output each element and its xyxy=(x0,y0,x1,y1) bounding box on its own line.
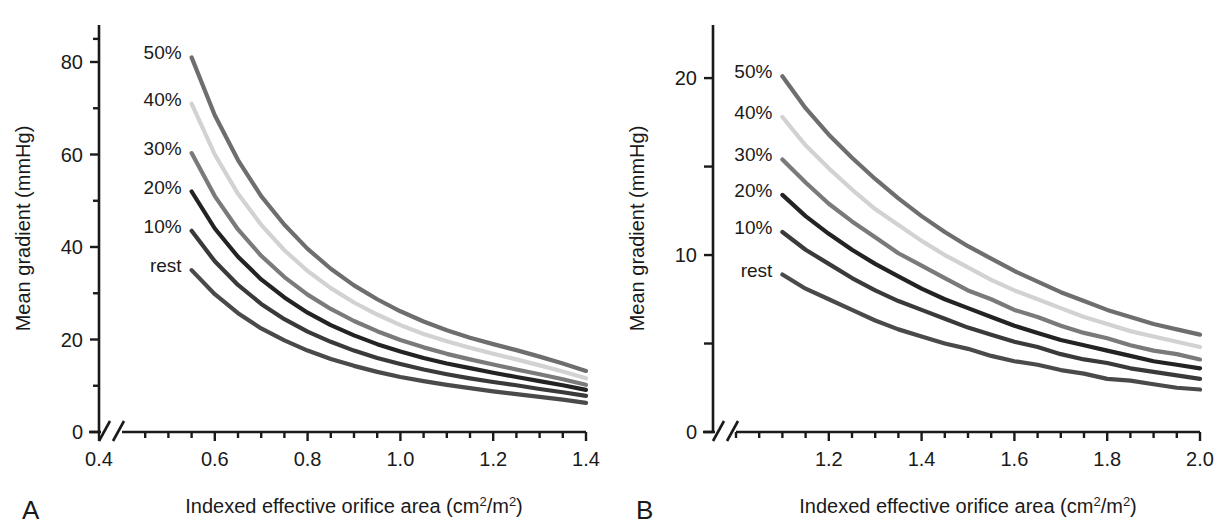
x-axis-tick-label: 1.4 xyxy=(908,448,936,470)
series-label-50pct: 50% xyxy=(734,61,772,82)
x-axis-title-mid: /m xyxy=(1101,495,1123,517)
panel-b: 010201.21.41.61.82.050%40%30%20%10%restM… xyxy=(614,0,1228,532)
series-label-10pct: 10% xyxy=(144,216,182,237)
figure-root: 0204060800.40.60.81.01.21.450%40%30%20%1… xyxy=(0,0,1228,532)
x-axis-title: Indexed effective orifice area (cm2/m2) xyxy=(799,494,1137,518)
panel-a-plot: 0204060800.40.60.81.01.21.450%40%30%20%1… xyxy=(0,0,614,532)
x-axis-tick-label: 0.8 xyxy=(294,448,322,470)
panel-a: 0204060800.40.60.81.01.21.450%40%30%20%1… xyxy=(0,0,614,532)
x-axis-tick-label: 1.8 xyxy=(1093,448,1121,470)
x-axis-title-mid: /m xyxy=(487,495,509,517)
y-axis-tick-label: 20 xyxy=(675,67,697,89)
y-axis-tick-label: 10 xyxy=(675,244,697,266)
y-axis-title: Mean gradient (mmHg) xyxy=(626,126,648,332)
x-axis-tick-label: 1.4 xyxy=(572,448,600,470)
x-axis-title-sup-cm: 2 xyxy=(1093,494,1100,509)
x-axis-tick-label: 1.2 xyxy=(815,448,843,470)
x-axis-title-end: ) xyxy=(516,495,523,517)
y-axis-tick-label: 0 xyxy=(72,421,83,443)
y-axis-tick-label: 0 xyxy=(686,421,697,443)
panel-letter: B xyxy=(636,495,653,525)
x-axis-tick-label: 1.2 xyxy=(479,448,507,470)
x-axis-title-sup-cm: 2 xyxy=(479,494,486,509)
series-label-rest: rest xyxy=(741,260,773,281)
x-axis-tick-label: 1.6 xyxy=(1000,448,1028,470)
series-label-10pct: 10% xyxy=(734,217,772,238)
x-axis-title-main: Indexed effective orifice area (cm xyxy=(799,495,1093,517)
series-label-40pct: 40% xyxy=(734,102,772,123)
y-axis-tick-label: 40 xyxy=(61,236,83,258)
y-axis-tick-label: 20 xyxy=(61,329,83,351)
x-axis-title-sup-m: 2 xyxy=(1123,494,1130,509)
series-curve-50pct xyxy=(782,76,1200,334)
series-label-20pct: 20% xyxy=(734,180,772,201)
x-axis-tick-label: 2.0 xyxy=(1186,448,1214,470)
series-label-rest: rest xyxy=(150,255,182,276)
y-axis-tick-label: 60 xyxy=(61,144,83,166)
x-axis-tick-label: 0.4 xyxy=(85,448,113,470)
x-axis-tick-label: 0.6 xyxy=(201,448,229,470)
series-label-40pct: 40% xyxy=(144,89,182,110)
series-label-30pct: 30% xyxy=(144,138,182,159)
y-axis-tick-label: 80 xyxy=(61,51,83,73)
x-axis-title: Indexed effective orifice area (cm2/m2) xyxy=(185,494,523,518)
series-label-50pct: 50% xyxy=(144,42,182,63)
x-axis-title-main: Indexed effective orifice area (cm xyxy=(185,495,479,517)
panel-letter: A xyxy=(22,495,40,525)
x-axis-tick-label: 1.0 xyxy=(386,448,414,470)
y-axis-title: Mean gradient (mmHg) xyxy=(12,126,34,332)
series-label-30pct: 30% xyxy=(734,144,772,165)
x-axis-title-sup-m: 2 xyxy=(509,494,516,509)
series-label-20pct: 20% xyxy=(144,177,182,198)
panel-b-plot: 010201.21.41.61.82.050%40%30%20%10%restM… xyxy=(614,0,1228,532)
x-axis-title-end: ) xyxy=(1130,495,1137,517)
